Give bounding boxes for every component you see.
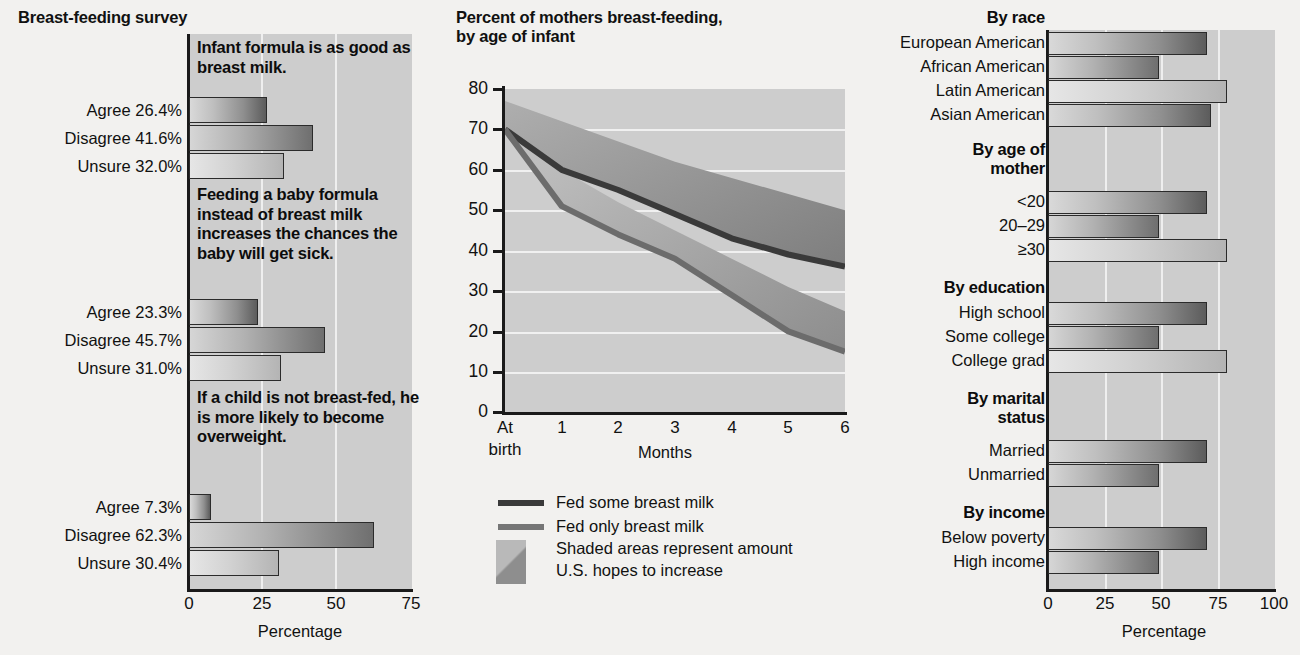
line-xtick-birth-2: birth [483,440,527,460]
label-q3-disagree: Disagree 62.3% [12,526,182,544]
line-xtick-4: 4 [710,418,754,438]
ytickmark-40 [493,250,503,253]
line-chart-title-line2: by age of infant [456,27,836,46]
label-q1-disagree: Disagree 41.6% [12,129,182,147]
label-q3-unsure: Unsure 30.4% [12,554,182,572]
question-text-1: Infant formula is as good as breast milk… [197,38,422,77]
label-q2-agree: Agree 23.3% [12,303,182,321]
legend-label-shaded-1: Shaded areas represent amount [556,538,793,558]
survey-xtick-50: 50 [314,594,358,614]
group-heading-by-age-line2: mother [885,159,1045,178]
line-chart-title-line1: Percent of mothers breast-feeding, [456,8,836,27]
demo-x-axis-label: Percentage [1089,622,1239,641]
question-text-2: Feeding a baby formula instead of breast… [197,185,422,263]
label-q2-unsure: Unsure 31.0% [12,359,182,377]
demo-bar-high-income [1048,551,1159,574]
group-heading-by-education: By education [885,278,1045,297]
demo-label-unmarried: Unmarried [880,465,1045,483]
line-ytick-70: 70 [448,118,488,139]
ytickmark-0 [493,411,503,414]
demo-bar-african-american [1048,56,1159,79]
legend-label-shaded-2: U.S. hopes to increase [556,560,723,580]
demo-bar-european-american [1048,32,1207,55]
legend-label-fed-some: Fed some breast milk [556,492,714,512]
demo-label-high-school: High school [880,303,1045,321]
demo-xtick-100: 100 [1252,594,1296,614]
ytickmark-20 [493,331,503,334]
line-chart-panel: Percent of mothers breast-feeding, by ag… [440,0,880,655]
line-xtick-6: 6 [823,418,867,438]
demo-label-latin-american: Latin American [880,81,1045,99]
label-q3-agree: Agree 7.3% [12,498,182,516]
demo-bar-below-poverty [1048,527,1207,550]
demo-bar-30-plus [1048,239,1227,262]
line-ytick-60: 60 [448,159,488,180]
ytickmark-60 [493,169,503,172]
label-q1-unsure: Unsure 32.0% [12,157,182,175]
bar-q3-disagree [189,522,374,548]
bar-q2-agree [189,299,258,325]
ytickmark-30 [493,290,503,293]
legend-swatch-fed-only [498,524,544,530]
group-heading-by-income: By income [885,503,1045,522]
bar-q2-disagree [189,327,325,353]
demographics-panel: By race European American African Americ… [880,0,1300,655]
line-xtick-3: 3 [653,418,697,438]
demo-xtick-25: 25 [1083,594,1127,614]
demo-bar-under-20 [1048,191,1207,214]
demo-x-axis [1046,589,1276,592]
bar-q1-unsure [189,153,284,179]
question-text-3: If a child is not breast-fed, he is more… [197,388,422,447]
legend-swatch-fed-some [498,500,544,506]
demo-bar-unmarried [1048,464,1159,487]
line-ytick-20: 20 [448,321,488,342]
group-heading-by-race: By race [885,8,1045,27]
demo-label-african-american: African American [880,57,1045,75]
demo-label-below-poverty: Below poverty [880,528,1045,546]
demo-bar-high-school [1048,302,1207,325]
ytickmark-70 [493,128,503,131]
survey-xtick-0: 0 [167,594,211,614]
demo-bar-asian-american [1048,104,1211,127]
line-ytick-0: 0 [448,401,488,422]
demo-label-20-29: 20–29 [880,216,1045,234]
bar-q3-unsure [189,550,279,576]
demo-label-some-college: Some college [880,327,1045,345]
demo-bar-college-grad [1048,350,1227,373]
line-ytick-30: 30 [448,280,488,301]
group-heading-by-marital-line1: By marital [885,389,1045,408]
survey-x-axis-label: Percentage [225,622,375,641]
demo-label-under-20: <20 [880,192,1045,210]
demo-xtick-75: 75 [1196,594,1240,614]
survey-panel: Breast-feeding survey Infant formula is … [0,0,440,655]
ytickmark-80 [493,88,503,91]
ytickmark-50 [493,209,503,212]
demo-label-college-grad: College grad [880,351,1045,369]
label-q2-disagree: Disagree 45.7% [12,331,182,349]
line-xtick-5: 5 [766,418,810,438]
survey-xtick-75: 75 [389,594,433,614]
demo-xtick-0: 0 [1026,594,1070,614]
group-heading-by-marital-line2: status [885,408,1045,427]
line-xtick-2: 2 [596,418,640,438]
line-xtick-1: 1 [540,418,584,438]
line-ytick-40: 40 [448,240,488,261]
demo-bar-married [1048,440,1207,463]
survey-panel-title: Breast-feeding survey [18,8,187,27]
gridline-50 [335,34,337,590]
bar-q2-unsure [189,355,281,381]
demo-label-married: Married [880,441,1045,459]
line-plot-area [505,89,845,412]
demo-gridline-75 [1218,30,1220,590]
line-ytick-10: 10 [448,361,488,382]
line-ytick-80: 80 [448,78,488,99]
bar-q1-disagree [189,125,313,151]
line-x-axis [502,412,847,415]
legend-swatch-shaded-area [496,540,526,584]
survey-x-axis [187,589,413,592]
bar-q3-agree [189,494,211,520]
demo-label-high-income: High income [880,552,1045,570]
line-ytick-50: 50 [448,199,488,220]
survey-xtick-25: 25 [240,594,284,614]
demo-bar-some-college [1048,326,1159,349]
